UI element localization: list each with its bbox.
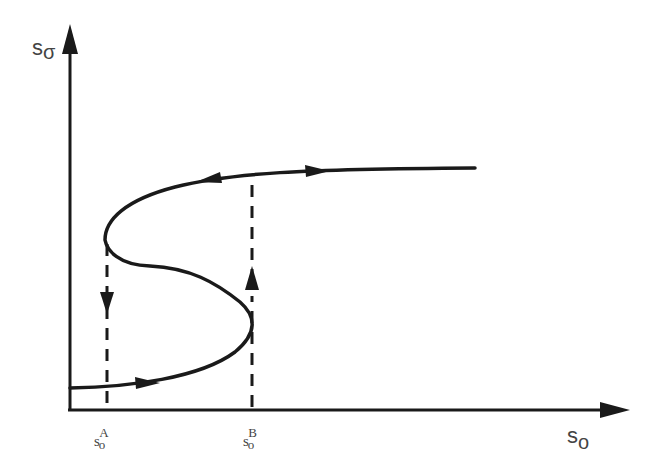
jump-up-arrow-icon bbox=[245, 266, 259, 290]
x-axis-arrowhead-icon bbox=[600, 402, 630, 418]
dashed-jump-up-B bbox=[245, 185, 259, 410]
y-axis bbox=[62, 24, 78, 410]
jump-down-arrow-icon bbox=[100, 292, 114, 314]
x-axis bbox=[68, 402, 630, 418]
upper-branch-arrow-left-icon bbox=[196, 172, 222, 183]
y-axis-label: sσ bbox=[32, 35, 56, 63]
x-axis-label: so bbox=[567, 423, 589, 453]
y-axis-arrowhead-icon bbox=[62, 24, 78, 54]
upper-branch-arrow-right-icon bbox=[305, 165, 330, 177]
tick-label-so-B: soB bbox=[243, 425, 257, 452]
tick-label-so-A: soA bbox=[94, 425, 109, 452]
hysteresis-diagram: sσ so soA soB bbox=[0, 0, 660, 470]
s-curve bbox=[70, 168, 475, 388]
